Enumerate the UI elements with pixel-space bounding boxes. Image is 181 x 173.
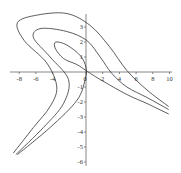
inner-level-curve bbox=[18, 42, 169, 155]
curve-group bbox=[13, 13, 168, 155]
x-tick-label: 10 bbox=[166, 75, 173, 82]
y-tick-label: -5 bbox=[78, 143, 83, 150]
x-tick-label: -6 bbox=[33, 75, 39, 82]
x-tick-label: 8 bbox=[151, 75, 154, 82]
y-tick-label: -4 bbox=[78, 128, 84, 135]
middle-level-curve bbox=[16, 28, 169, 154]
contour-plot: -8-6-40246810 321-1-2-3-4-5-6 bbox=[0, 0, 181, 173]
y-tick-label: -3 bbox=[78, 113, 83, 120]
x-tick-label: -8 bbox=[16, 75, 21, 82]
outer-level-curve bbox=[13, 13, 168, 153]
y-tick-label: -6 bbox=[78, 158, 84, 165]
x-axis: -8-6-40246810 bbox=[10, 72, 173, 82]
y-tick-label: -2 bbox=[78, 98, 83, 105]
y-tick-group: 321-1-2-3-4-5-6 bbox=[78, 23, 86, 165]
y-tick-label: 3 bbox=[80, 23, 83, 30]
y-tick-label: 2 bbox=[80, 38, 83, 45]
x-tick-group: -8-6-40246810 bbox=[16, 72, 172, 82]
